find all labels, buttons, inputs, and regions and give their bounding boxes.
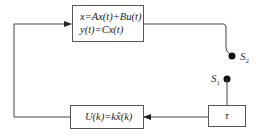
switch-s1-label: S1 bbox=[211, 72, 220, 87]
plant-state-equation: x=Ax(t)+Bu(t) bbox=[80, 11, 141, 23]
switch-s2-contact bbox=[229, 53, 236, 60]
output-wire bbox=[143, 24, 231, 55]
delay-label: τ bbox=[225, 110, 229, 122]
plant-output-equation: y(t)=Cx(t) bbox=[80, 24, 123, 36]
controller-box: U(k)=kx̃(k) bbox=[70, 105, 144, 129]
controller-to-plant-wire bbox=[14, 24, 71, 117]
switch-s2-label: S2 bbox=[240, 50, 249, 65]
delay-box: τ bbox=[208, 105, 246, 127]
plant-box: x=Ax(t)+Bu(t) y(t)=Cx(t) bbox=[72, 5, 144, 42]
controller-equation: U(k)=kx̃(k) bbox=[85, 111, 132, 123]
